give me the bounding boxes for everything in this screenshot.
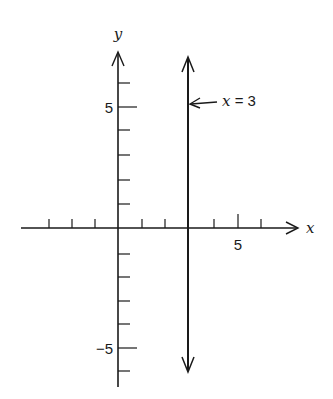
x-tick-label-5: 5: [234, 236, 242, 253]
line-label: x = 3: [222, 92, 256, 110]
y-axis-ticks: [118, 83, 137, 371]
annotation-pointer: [191, 102, 217, 104]
x-axis-ticks: [49, 214, 261, 228]
coordinate-plane-diagram: y x 5 5 −5 x = 3: [0, 0, 333, 399]
y-tick-label-5: 5: [105, 99, 113, 116]
y-tick-label-neg-5: −5: [96, 340, 113, 357]
y-axis-label: y: [113, 25, 123, 43]
x-axis-label: x: [306, 219, 315, 237]
